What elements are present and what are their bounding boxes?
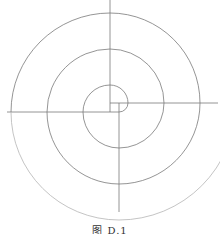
spiral-arc [119, 103, 200, 184]
figure-caption: 图 D.1 [0, 222, 220, 234]
spiral-arc [110, 13, 200, 103]
spiral-arc [47, 112, 119, 184]
spiral-arc [119, 103, 164, 148]
spiral-arc [11, 112, 119, 220]
spiral-arc [110, 49, 164, 103]
spiral-arc [83, 85, 110, 112]
spiral-arc [119, 103, 128, 112]
construction-lines [7, 0, 218, 212]
spiral-arc [11, 13, 110, 112]
spiral-arc [47, 49, 110, 112]
spiral-arc [110, 85, 128, 103]
spiral-diagram [0, 0, 220, 234]
spiral-arc [83, 112, 119, 148]
quarter-arc-spiral [11, 13, 220, 220]
spiral-arc [119, 103, 220, 220]
